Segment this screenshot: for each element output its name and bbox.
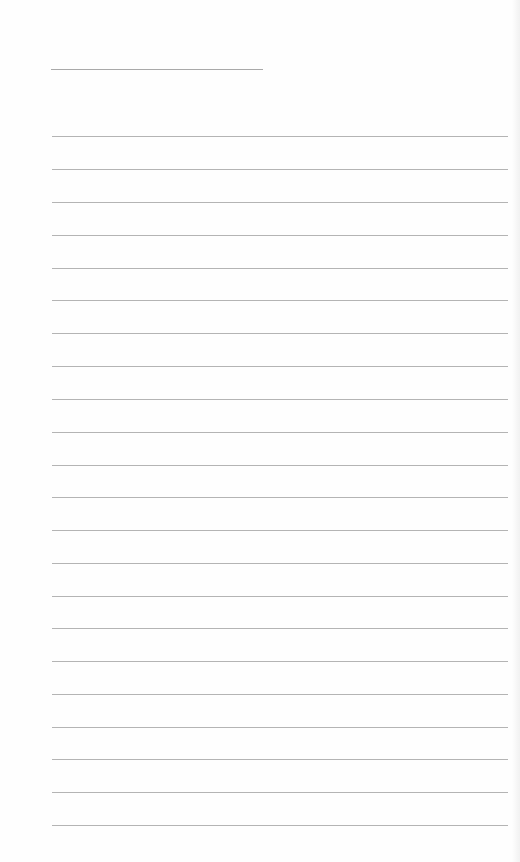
ruled-line [52,399,508,400]
ruled-line [52,792,508,793]
ruled-line [52,136,508,137]
ruled-line [52,497,508,498]
ruled-line [52,661,508,662]
ruled-line [52,825,508,826]
ruled-line [52,563,508,564]
lined-paper-page [0,0,520,862]
ruled-line [52,465,508,466]
ruled-line [52,202,508,203]
ruled-line [52,530,508,531]
ruled-line [52,235,508,236]
ruled-line [52,759,508,760]
ruled-line [52,727,508,728]
ruled-line [52,694,508,695]
ruled-line [52,366,508,367]
page-edge-shadow [512,0,520,862]
ruled-line [52,596,508,597]
ruled-line [52,268,508,269]
title-line [51,69,263,70]
ruled-line [52,628,508,629]
ruled-line [52,333,508,334]
ruled-line [52,169,508,170]
ruled-line [52,300,508,301]
ruled-line [52,432,508,433]
